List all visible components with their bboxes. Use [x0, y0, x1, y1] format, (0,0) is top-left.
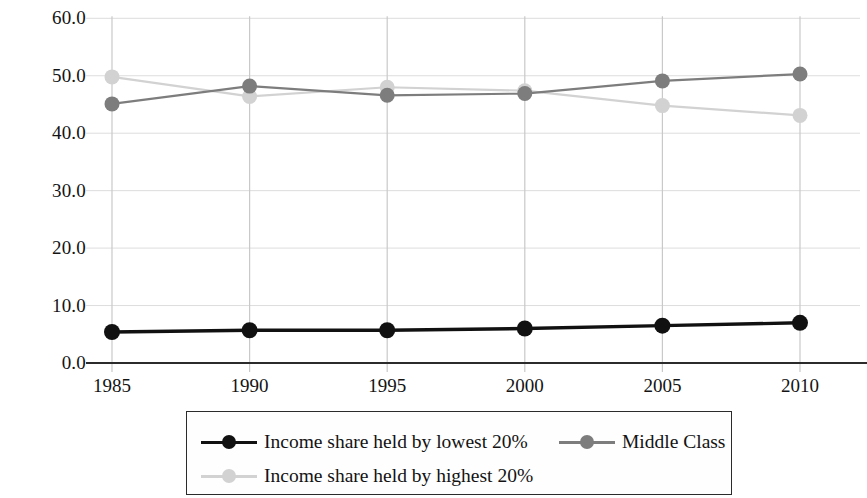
- x-axis-tick-label: 2000: [480, 376, 570, 395]
- data-point: [792, 315, 808, 331]
- data-point: [655, 73, 670, 88]
- data-point: [104, 324, 120, 340]
- chart-legend: Income share held by lowest 20% Middle C…: [186, 411, 732, 495]
- data-point: [242, 322, 258, 338]
- x-axis-tick-label: 1995: [342, 376, 432, 395]
- legend-marker-highest20: [222, 469, 236, 483]
- y-axis-tick-label: 10.0: [12, 296, 86, 315]
- vertical-gridlines: [112, 16, 800, 372]
- y-axis-tick-labels: 0.010.020.030.040.050.060.0: [0, 0, 86, 400]
- y-axis-tick-label: 40.0: [12, 123, 86, 142]
- data-point: [379, 322, 395, 338]
- legend-marker-middle-class: [580, 435, 594, 449]
- data-point: [242, 79, 257, 94]
- legend-label-lowest20: Income share held by lowest 20%: [264, 431, 528, 453]
- horizontal-gridlines: [86, 18, 860, 305]
- chart-canvas: [0, 0, 867, 400]
- legend-item-middle-class[interactable]: Middle Class: [559, 429, 725, 455]
- legend-label-highest20: Income share held by highest 20%: [264, 465, 533, 487]
- data-point: [105, 96, 120, 111]
- data-point: [517, 86, 532, 101]
- y-axis-tick-label: 50.0: [12, 66, 86, 85]
- legend-item-lowest20[interactable]: Income share held by lowest 20%: [201, 429, 528, 455]
- data-series-layer: [104, 67, 808, 340]
- data-point: [654, 318, 670, 334]
- x-axis-tick-label: 1990: [205, 376, 295, 395]
- data-point: [517, 321, 533, 337]
- x-axis-tick-label: 2010: [755, 376, 845, 395]
- x-axis-tick-label: 1985: [67, 376, 157, 395]
- plot-area: 0.010.020.030.040.050.060.0 198519901995…: [0, 0, 867, 400]
- legend-item-highest20[interactable]: Income share held by highest 20%: [201, 463, 533, 489]
- legend-marker-lowest20: [222, 435, 236, 449]
- y-axis-tick-label: 20.0: [12, 238, 86, 257]
- y-axis-tick-label: 60.0: [12, 8, 86, 27]
- legend-swatch-highest20: [201, 466, 257, 486]
- y-axis-tick-label: 30.0: [12, 181, 86, 200]
- legend-swatch-middle-class: [559, 432, 615, 452]
- data-point: [793, 108, 808, 123]
- data-point: [793, 67, 808, 82]
- chart-figure: 0.010.020.030.040.050.060.0 198519901995…: [0, 0, 867, 498]
- x-axis-tick-label: 2005: [617, 376, 707, 395]
- data-point: [105, 69, 120, 84]
- data-point: [655, 98, 670, 113]
- data-point: [380, 88, 395, 103]
- x-axis-tick-labels: 198519901995200020052010: [0, 368, 867, 400]
- legend-swatch-lowest20: [201, 432, 257, 452]
- legend-label-middle-class: Middle Class: [622, 431, 725, 453]
